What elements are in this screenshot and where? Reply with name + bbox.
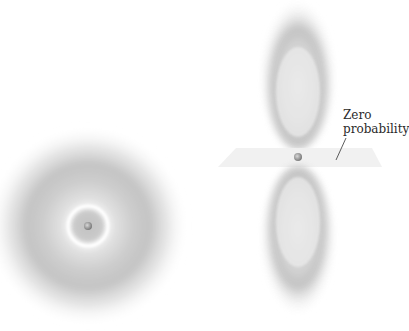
p-orbital-lower-lobe	[262, 165, 334, 325]
label-line-1: Zero	[343, 108, 409, 122]
p-orbital-upper-lobe	[262, 0, 334, 150]
p-nucleus	[294, 153, 302, 161]
label-line-2: probability	[343, 122, 409, 136]
zero-probability-label: Zero probability	[343, 108, 409, 136]
s-orbital	[0, 126, 188, 326]
s-nucleus	[84, 222, 92, 230]
